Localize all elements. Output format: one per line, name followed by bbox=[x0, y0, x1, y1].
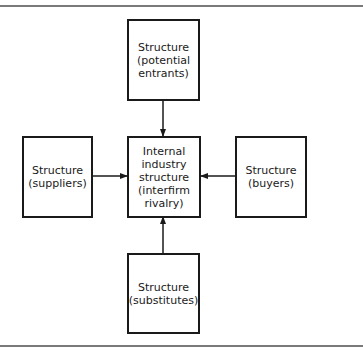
box-label: Structure bbox=[137, 41, 190, 54]
box-label: structure bbox=[138, 171, 190, 184]
box-suppliers: Structure (suppliers) bbox=[22, 136, 93, 218]
box-substitutes: Structure (substitutes) bbox=[127, 253, 200, 334]
box-label: industry bbox=[138, 158, 190, 171]
box-potential-entrants: Structure (potential entrants) bbox=[127, 19, 200, 101]
box-internal-rivalry: Internal industry structure (interfirm r… bbox=[127, 136, 201, 218]
box-label: (substitutes) bbox=[129, 294, 198, 307]
box-buyers: Structure (buyers) bbox=[235, 136, 307, 218]
box-label: Structure bbox=[28, 164, 86, 177]
box-label: Structure bbox=[129, 281, 198, 294]
box-label: (buyers) bbox=[245, 177, 296, 190]
box-label: (suppliers) bbox=[28, 177, 86, 190]
box-label: rivalry) bbox=[138, 197, 190, 210]
box-label: (interfirm bbox=[138, 184, 190, 197]
box-label: Internal bbox=[138, 145, 190, 158]
box-label: (potential bbox=[137, 54, 190, 67]
box-label: Structure bbox=[245, 164, 296, 177]
box-label: entrants) bbox=[137, 67, 190, 80]
